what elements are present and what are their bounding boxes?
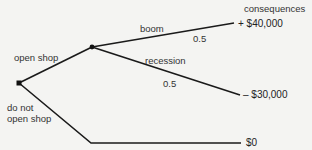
decision-node-icon	[17, 81, 22, 86]
do-not-open-label-line1: do not	[7, 102, 33, 113]
branch-do-not-open	[19, 83, 241, 143]
recession-label: recession	[145, 55, 186, 66]
boom-label: boom	[140, 23, 164, 34]
do-not-open-label-line2: open shop	[7, 113, 51, 124]
outcome-recession-value: – $30,000	[243, 89, 288, 100]
consequences-header: consequences	[244, 3, 305, 14]
outcome-boom-value: + $40,000	[238, 18, 283, 29]
recession-probability: 0.5	[163, 78, 176, 89]
open-shop-label: open shop	[14, 52, 58, 63]
boom-probability: 0.5	[193, 33, 206, 44]
outcome-do-not-open-value: $0	[246, 137, 257, 148]
chance-node-icon	[90, 45, 95, 50]
